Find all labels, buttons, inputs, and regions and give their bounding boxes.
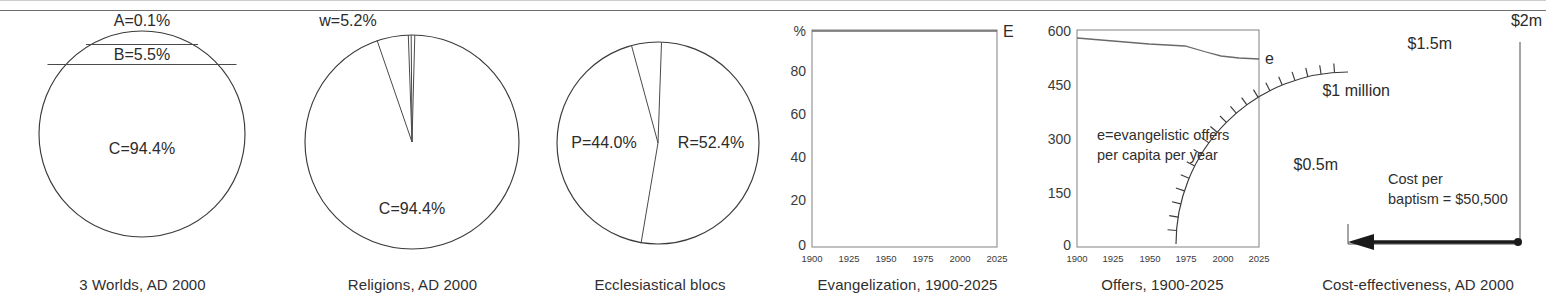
religions-sliver-edge-b: [412, 35, 415, 142]
panel-cost-effectiveness: $0.5m $1 million $1.5m $2m Cost per bapt…: [1290, 12, 1546, 301]
gauge-label-1-5m: $1.5m: [1408, 35, 1452, 52]
x-tick-2025: 2025: [1248, 253, 1269, 264]
x-tick-2025: 2025: [986, 253, 1007, 264]
boundary-r-p: [641, 43, 662, 244]
caption-offers: Offers, 1900-2025: [1035, 276, 1290, 293]
page-top-edge-rule: [0, 0, 1546, 1]
panel-ecclesiastical-blocs: P=44.0% R=52.4% Ecclesiastical blocs: [540, 12, 780, 301]
x-tick-1950: 1950: [1139, 253, 1160, 264]
gauge-needle-arrowhead: [1348, 234, 1374, 250]
caption-cost-effectiveness: Cost-effectiveness, AD 2000: [1290, 276, 1546, 293]
y-tick-0: 0: [798, 237, 806, 253]
boundary-p-other: [632, 46, 659, 144]
offers-series-e: [1077, 38, 1259, 59]
y-tick-600: 600: [1048, 23, 1072, 39]
x-tick-1925: 1925: [1102, 253, 1123, 264]
y-tick-40: 40: [790, 149, 806, 165]
panel-evangelization: % 80 60 40 20 0 1900 1925 1950 1975 2000…: [780, 12, 1035, 301]
x-tick-1900: 1900: [801, 253, 822, 264]
figure-sheet: A=0.1% B=5.5% C=94.4% 3 Worlds, AD 2000 …: [0, 0, 1546, 301]
religions-wedge-w-edge-left: [377, 40, 412, 142]
gauge-note-line-1: Cost per: [1388, 171, 1443, 187]
y-tick-450: 450: [1048, 77, 1072, 93]
three-worlds-diagram: A=0.1% B=5.5% C=94.4%: [0, 12, 285, 274]
caption-evangelization: Evangelization, 1900-2025: [780, 276, 1035, 293]
y-tick-60: 60: [790, 106, 806, 122]
x-tick-1975: 1975: [912, 253, 933, 264]
caption-religions: Religions, AD 2000: [285, 276, 540, 293]
caption-ecclesiastical-blocs: Ecclesiastical blocs: [540, 276, 780, 293]
cost-effectiveness-gauge: $0.5m $1 million $1.5m $2m Cost per bapt…: [1290, 12, 1546, 274]
label-segment-c: C=94.4%: [379, 200, 445, 217]
panel-three-worlds: A=0.1% B=5.5% C=94.4% 3 Worlds, AD 2000: [0, 12, 285, 301]
y-tick-80: 80: [790, 63, 806, 79]
evangelization-plot-frame: [812, 30, 997, 247]
gauge-tick: [1168, 230, 1177, 231]
x-tick-1950: 1950: [875, 253, 896, 264]
evangelization-chart: % 80 60 40 20 0 1900 1925 1950 1975 2000…: [780, 12, 1035, 274]
label-segment-p: P=44.0%: [571, 134, 636, 151]
label-segment-c: C=94.4%: [109, 140, 175, 157]
series-label-E: E: [1003, 23, 1014, 40]
x-tick-2000: 2000: [1212, 253, 1233, 264]
gauge-tick: [1334, 64, 1335, 73]
y-tick-300: 300: [1048, 131, 1072, 147]
panel-religions: w=5.2% C=94.4% Religions, AD 2000: [285, 12, 540, 301]
x-tick-1975: 1975: [1175, 253, 1196, 264]
ecclesiastical-blocs-pie: P=44.0% R=52.4%: [540, 12, 780, 274]
y-tick-150: 150: [1048, 185, 1072, 201]
label-segment-r: R=52.4%: [678, 134, 744, 151]
page-header-rule: [0, 10, 1546, 11]
caption-three-worlds: 3 Worlds, AD 2000: [0, 276, 285, 293]
y-tick-20: 20: [790, 192, 806, 208]
y-axis-unit-label: %: [794, 23, 806, 39]
y-tick-0: 0: [1063, 237, 1071, 253]
offers-note-line-2: per capita per year: [1097, 147, 1218, 163]
label-segment-a: A=0.1%: [114, 12, 170, 29]
x-tick-1925: 1925: [838, 253, 859, 264]
gauge-label-2m: $2m: [1511, 12, 1542, 29]
x-tick-1900: 1900: [1066, 253, 1087, 264]
panel-offers: 600 450 300 150 0 1900 1925 1950 1975 20…: [1035, 12, 1290, 301]
gauge-needle-pivot: [1514, 238, 1522, 246]
series-label-e: e: [1265, 50, 1274, 67]
label-segment-w: w=5.2%: [318, 12, 376, 29]
gauge-label-0-5m: $0.5m: [1294, 156, 1338, 173]
gauge-note-line-2: baptism = $50,500: [1388, 191, 1508, 207]
offers-note-line-1: e=evangelistic offers: [1097, 127, 1229, 143]
label-segment-b: B=5.5%: [114, 46, 170, 63]
x-tick-2000: 2000: [949, 253, 970, 264]
religions-pie: w=5.2% C=94.4%: [285, 12, 540, 274]
offers-chart: 600 450 300 150 0 1900 1925 1950 1975 20…: [1035, 12, 1290, 274]
gauge-tick: [1292, 72, 1295, 81]
gauge-tick: [1320, 65, 1321, 74]
gauge-label-1m: $1 million: [1322, 82, 1390, 99]
gauge-tick: [1306, 68, 1308, 77]
